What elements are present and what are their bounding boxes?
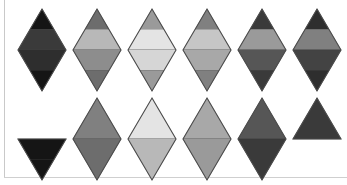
shape-shape-r1-c2	[68, 6, 126, 94]
band-3	[128, 50, 176, 71]
shape-shape-r1-c6	[288, 6, 346, 94]
band-2	[183, 139, 231, 180]
shape-shape-r2-c5	[233, 95, 291, 183]
shape-shape-r1-c4	[178, 6, 236, 94]
band-1	[30, 9, 54, 30]
band-4	[30, 71, 54, 92]
band-2	[18, 30, 66, 51]
band-1	[305, 9, 329, 30]
band-4	[195, 71, 219, 92]
band-1	[128, 98, 176, 139]
shape-shape-r2-c2	[68, 95, 126, 183]
shape-shape-r2-c4	[178, 95, 236, 183]
band-1	[238, 98, 286, 139]
band-2	[73, 139, 121, 180]
band-4	[305, 71, 329, 92]
shape-shape-r2-c1	[13, 95, 71, 183]
band-1	[183, 98, 231, 139]
band-2	[30, 160, 54, 181]
band-1	[73, 98, 121, 139]
band-2	[128, 139, 176, 180]
shape-shape-r2-c3	[123, 95, 181, 183]
band-3	[238, 50, 286, 71]
band-2	[238, 30, 286, 51]
figure-canvas	[0, 0, 347, 185]
band-1	[250, 9, 274, 30]
band-2	[183, 30, 231, 51]
band-1	[18, 139, 66, 160]
band-1	[293, 98, 341, 139]
shape-shape-r1-c3	[123, 6, 181, 94]
band-2	[73, 30, 121, 51]
band-3	[18, 50, 66, 71]
shape-shape-r1-c1	[13, 6, 71, 94]
shape-shape-r1-c5	[233, 6, 291, 94]
band-1	[85, 9, 109, 30]
band-2	[238, 139, 286, 180]
band-3	[183, 50, 231, 71]
band-4	[85, 71, 109, 92]
band-3	[293, 50, 341, 71]
band-3	[73, 50, 121, 71]
band-2	[293, 30, 341, 51]
band-1	[140, 9, 164, 30]
shape-grid	[0, 0, 347, 185]
band-1	[195, 9, 219, 30]
shape-shape-r2-c6	[288, 95, 346, 183]
band-2	[128, 30, 176, 51]
band-4	[140, 71, 164, 92]
band-4	[250, 71, 274, 92]
